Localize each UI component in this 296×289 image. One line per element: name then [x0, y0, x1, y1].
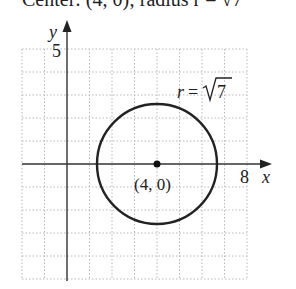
svg-text:7: 7: [217, 82, 226, 102]
y-axis-label: y: [47, 22, 57, 42]
radius-label: r = 7: [177, 78, 232, 102]
x-axis-label: x: [261, 167, 270, 187]
svg-text:=: =: [188, 82, 198, 102]
axes: [22, 26, 266, 281]
center-point: [154, 161, 161, 168]
y-tick-5: 5: [52, 41, 61, 61]
y-axis-arrow-icon: [63, 20, 72, 32]
svg-text:r: r: [177, 82, 185, 102]
center-label: (4, 0): [134, 175, 171, 194]
circle-graph: y 5 8 x (4, 0) r = 7: [0, 0, 296, 289]
x-tick-8: 8: [240, 167, 249, 187]
